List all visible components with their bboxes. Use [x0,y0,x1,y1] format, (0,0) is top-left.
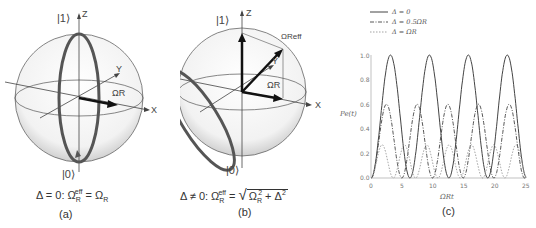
xtick: 5 [400,182,404,189]
axis-x-label: X [315,100,321,110]
eq-b-sup: eff [218,189,226,196]
x-axis-label: ΩRt [440,193,454,201]
series-dotted [371,145,526,178]
equation-a: Δ = 0: ΩReff = ΩR [36,188,108,203]
ket-zero-label: |0⟩ [226,164,239,177]
caption-b: (b) [238,206,251,218]
sqrt-symbol: √ [239,186,247,203]
axis-z-label: Z [246,8,252,18]
axis-y-label: Y [272,56,278,66]
eq-a-sub: R [76,196,81,203]
ytick: 0.0 [360,174,370,181]
ytick: 0.6 [360,101,370,108]
omega-eff-label: ΩReff [281,32,302,41]
ytick: 1.0 [360,52,370,59]
omega-r-label: ΩR [267,80,280,90]
eq-a-sub2: R [103,196,108,203]
rad-sup2: 2 [282,189,286,196]
eq-b-lhs: Δ ≠ 0: Ω [180,190,219,202]
xtick: 20 [491,182,499,189]
ket-one-label: |1⟩ [216,14,229,27]
xtick: 0 [369,182,373,189]
equation-b: Δ ≠ 0: ΩReff = √ΩR2 + Δ2 [180,186,288,204]
ytick: 0.8 [360,76,370,83]
y-axis-label: Pe(t) [340,110,357,118]
legend-entry-0: Δ = 0 [392,8,410,16]
xtick: 10 [429,182,437,189]
series-solid [371,55,526,178]
panel-a: |1⟩ Z Y X ΩR |0⟩ Δ = 0: ΩReff = ΩR (a) [0,0,180,228]
xtick: 15 [460,182,468,189]
radicand: ΩR2 + Δ2 [247,189,288,202]
xtick: 25 [522,182,530,189]
eq-b-sub: R [219,197,224,204]
ytick: 0.2 [360,150,370,157]
ket-zero-label: |0⟩ [62,168,75,181]
eq-a-lhs: Δ = 0: Ω [36,189,76,201]
caption-a: (a) [59,208,72,220]
axis-y-label: Y [116,64,122,74]
series-dash-dot [371,104,526,178]
ket-one-label: |1⟩ [57,12,70,25]
panel-c: Δ = 0 Δ = 0.5ΩR Δ = ΩR 1.0 0.8 0.6 0.4 0… [360,0,536,228]
rad-delta: + Δ [262,190,282,202]
axis-z-label: Z [82,9,88,19]
axis-x-label: X [151,105,157,115]
eq-b-mid: = [226,190,239,202]
omega-r-label: ΩR [112,88,125,98]
legend-entry-1: Δ = 0.5ΩR [392,18,427,26]
panel-b: |1⟩ Z Y X ΩR ΩReff |0⟩ Δ ≠ 0: ΩReff = √Ω… [180,0,360,228]
eq-a-mid: = Ω [82,189,103,201]
ytick: 0.4 [360,125,370,132]
legend-entry-2: Δ = ΩR [392,28,417,36]
rad-omega: Ω [249,190,257,202]
caption-c: (c) [442,205,455,217]
